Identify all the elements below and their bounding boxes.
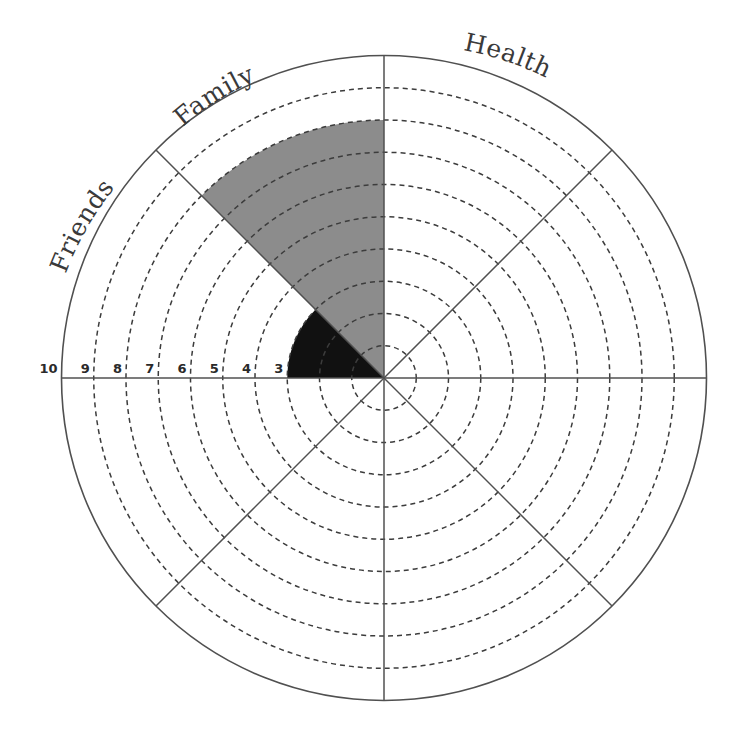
wedge-family	[202, 120, 384, 378]
life-wheel-chart: 109876543 Family Health Friends	[0, 0, 747, 738]
ring-number-9: 9	[81, 361, 90, 376]
segment-spokes	[62, 56, 707, 701]
ring-number-5: 5	[210, 361, 219, 376]
ring-number-7: 7	[145, 361, 154, 376]
segment-label-health: Health	[462, 27, 557, 83]
ring-number-6: 6	[177, 361, 186, 376]
ring-number-labels: 109876543	[39, 361, 283, 376]
segment-label-family: Family	[168, 59, 259, 131]
ring-number-4: 4	[242, 361, 251, 376]
ring-number-8: 8	[113, 361, 122, 376]
ring-number-3: 3	[274, 361, 283, 376]
value-wedges	[202, 120, 384, 378]
segment-label-friends: Friends	[44, 173, 120, 276]
ring-number-10: 10	[39, 361, 57, 376]
